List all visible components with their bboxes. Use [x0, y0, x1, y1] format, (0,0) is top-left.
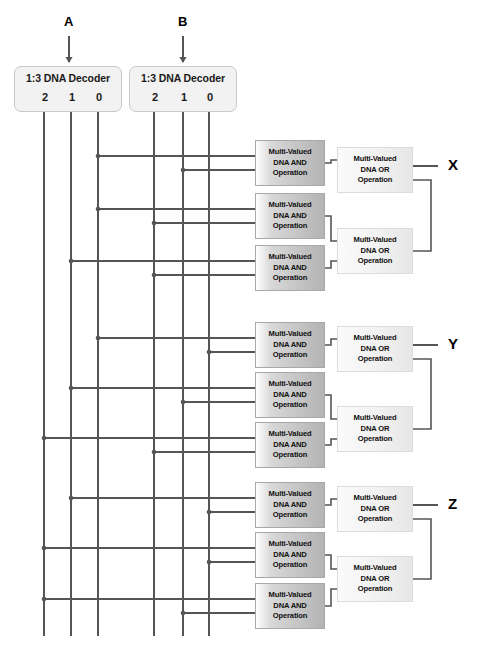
- output-label-X: X: [448, 156, 458, 173]
- or-gate-label-line-2: DNA OR: [361, 246, 390, 257]
- block-x-and1-tap-bottom: [181, 168, 186, 173]
- block-x-and-gate-1[interactable]: Multi-ValuedDNA ANDOperation: [255, 140, 325, 186]
- decoder-b-pin-1: 1: [176, 91, 192, 103]
- diagram-canvas: AB1:3 DNA Decoder2101:3 DNA Decoder210Mu…: [0, 0, 478, 646]
- or-gate-label-line-2: DNA OR: [361, 344, 390, 355]
- block-z-or-bottom[interactable]: Multi-ValuedDNA OROperation: [337, 556, 413, 602]
- or-gate-label-line-2: DNA OR: [361, 424, 390, 435]
- and-gate-label-line-1: Multi-Valued: [269, 489, 312, 500]
- block-x-and3-tap-top: [69, 259, 74, 264]
- and-gate-label-line-1: Multi-Valued: [269, 379, 312, 390]
- and-gate-label-line-3: Operation: [273, 510, 308, 521]
- block-x-and3-to-orbottom: [325, 261, 337, 268]
- decoder-a[interactable]: 1:3 DNA Decoder210: [14, 66, 122, 112]
- and-gate-label-line-2: DNA AND: [273, 340, 306, 351]
- or-gate-label-line-1: Multi-Valued: [354, 154, 397, 165]
- decoder-a-pins: 210: [15, 91, 121, 109]
- or-gate-label-line-3: Operation: [358, 175, 393, 186]
- decoder-b-title: 1:3 DNA Decoder: [130, 72, 236, 84]
- and-gate-label-line-1: Multi-Valued: [269, 147, 312, 158]
- and-gate-label-line-3: Operation: [273, 273, 308, 284]
- block-x-and2-to-orbottom: [325, 216, 337, 241]
- or-gate-label-line-3: Operation: [358, 584, 393, 595]
- and-gate-label-line-2: DNA AND: [273, 390, 306, 401]
- and-gate-label-line-1: Multi-Valued: [269, 200, 312, 211]
- and-gate-label-line-2: DNA AND: [273, 550, 306, 561]
- block-y-and-gate-1[interactable]: Multi-ValuedDNA ANDOperation: [255, 322, 325, 368]
- block-z-and2-tap-top: [42, 546, 47, 551]
- block-z-and3-tap-top: [42, 597, 47, 602]
- block-z-and2-tap-bottom: [207, 560, 212, 565]
- block-y-or-bottom[interactable]: Multi-ValuedDNA OROperation: [337, 406, 413, 452]
- and-gate-label-line-2: DNA AND: [273, 263, 306, 274]
- block-y-and3-to-orbottom: [325, 439, 337, 445]
- or-gate-label-line-3: Operation: [358, 514, 393, 525]
- block-x-and-gate-3[interactable]: Multi-ValuedDNA ANDOperation: [255, 245, 325, 291]
- output-label-Z: Z: [448, 495, 457, 512]
- block-x-and1-tap-top: [96, 154, 101, 159]
- or-gate-label-line-1: Multi-Valued: [354, 333, 397, 344]
- input-label-A: A: [64, 14, 73, 29]
- block-y-and1-tap-top: [96, 336, 101, 341]
- block-z-and2-to-orbottom: [325, 555, 337, 569]
- input-arrow-head-B: [179, 57, 186, 63]
- decoder-b-pin-2: 2: [147, 91, 163, 103]
- block-x-and2-tap-top: [96, 207, 101, 212]
- block-z-and1-to-ortop: [325, 499, 337, 505]
- or-gate-label-line-3: Operation: [358, 256, 393, 267]
- decoder-b-pins: 210: [130, 91, 236, 109]
- or-gate-label-line-2: DNA OR: [361, 504, 390, 515]
- decoder-a-title: 1:3 DNA Decoder: [15, 72, 121, 84]
- block-x-and-gate-2[interactable]: Multi-ValuedDNA ANDOperation: [255, 193, 325, 239]
- and-gate-label-line-3: Operation: [273, 221, 308, 232]
- block-y-and-gate-2[interactable]: Multi-ValuedDNA ANDOperation: [255, 372, 325, 418]
- block-y-and3-tap-bottom: [152, 450, 157, 455]
- and-gate-label-line-2: DNA AND: [273, 500, 306, 511]
- and-gate-label-line-1: Multi-Valued: [269, 539, 312, 550]
- or-gate-label-line-3: Operation: [358, 434, 393, 445]
- and-gate-label-line-3: Operation: [273, 350, 308, 361]
- and-gate-label-line-2: DNA AND: [273, 440, 306, 451]
- and-gate-label-line-2: DNA AND: [273, 158, 306, 169]
- block-z-and-gate-1[interactable]: Multi-ValuedDNA ANDOperation: [255, 482, 325, 528]
- or-gate-label-line-1: Multi-Valued: [354, 413, 397, 424]
- and-gate-label-line-2: DNA AND: [273, 601, 306, 612]
- and-gate-label-line-1: Multi-Valued: [269, 429, 312, 440]
- or-gate-label-line-2: DNA OR: [361, 165, 390, 176]
- or-gate-label-line-3: Operation: [358, 354, 393, 365]
- or-gate-label-line-2: DNA OR: [361, 574, 390, 585]
- input-arrow-head-A: [65, 57, 72, 63]
- output-label-Y: Y: [448, 335, 458, 352]
- and-gate-label-line-1: Multi-Valued: [269, 329, 312, 340]
- block-y-and1-to-ortop: [325, 339, 337, 345]
- block-x-or-bottom[interactable]: Multi-ValuedDNA OROperation: [337, 228, 413, 274]
- and-gate-label-line-3: Operation: [273, 450, 308, 461]
- or-gate-label-line-1: Multi-Valued: [354, 235, 397, 246]
- and-gate-label-line-2: DNA AND: [273, 211, 306, 222]
- block-z-and-gate-2[interactable]: Multi-ValuedDNA ANDOperation: [255, 532, 325, 578]
- block-x-and1-to-ortop: [325, 160, 337, 163]
- block-z-and3-tap-bottom: [181, 611, 186, 616]
- block-z-and-gate-3[interactable]: Multi-ValuedDNA ANDOperation: [255, 583, 325, 629]
- block-y-or-top[interactable]: Multi-ValuedDNA OROperation: [337, 326, 413, 372]
- block-z-and1-tap-bottom: [207, 510, 212, 515]
- and-gate-label-line-3: Operation: [273, 611, 308, 622]
- decoder-a-pin-1: 1: [64, 91, 80, 103]
- or-gate-label-line-1: Multi-Valued: [354, 493, 397, 504]
- block-z-or-top[interactable]: Multi-ValuedDNA OROperation: [337, 486, 413, 532]
- block-x-or-top[interactable]: Multi-ValuedDNA OROperation: [337, 147, 413, 193]
- decoder-b-pin-0: 0: [202, 91, 218, 103]
- decoder-a-pin-0: 0: [91, 91, 107, 103]
- block-z-and3-to-orbottom: [325, 589, 337, 606]
- and-gate-label-line-3: Operation: [273, 400, 308, 411]
- decoder-b[interactable]: 1:3 DNA Decoder210: [129, 66, 237, 112]
- block-x-and2-tap-bottom: [152, 221, 157, 226]
- block-y-and2-tap-bottom: [181, 400, 186, 405]
- decoder-a-pin-2: 2: [37, 91, 53, 103]
- and-gate-label-line-3: Operation: [273, 560, 308, 571]
- block-y-and-gate-3[interactable]: Multi-ValuedDNA ANDOperation: [255, 422, 325, 468]
- input-label-B: B: [178, 14, 187, 29]
- block-y-and3-tap-top: [42, 436, 47, 441]
- block-y-and1-tap-bottom: [207, 350, 212, 355]
- block-y-and2-tap-top: [69, 386, 74, 391]
